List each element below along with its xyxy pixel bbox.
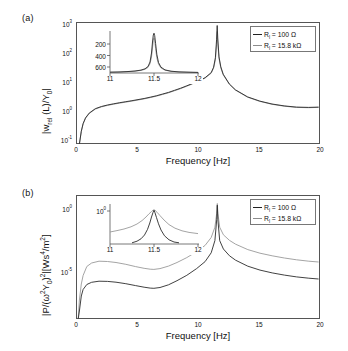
panel-b-xtick-4: 20: [316, 321, 323, 328]
ylabel-b-part2: Y: [40, 284, 51, 290]
panel-b-inset-xtick-0: 11: [107, 246, 114, 253]
ylabel-b-sup1: 2: [39, 290, 46, 294]
panel-a-xtick-1: 5: [135, 146, 139, 153]
panel-a-plot-area: 11 11.5 12 200 400 600 Rl = 100 Ω Rl = 1…: [76, 22, 320, 144]
legend-swatch-gray: [253, 45, 262, 46]
panel-a-ytick-4: 103: [50, 21, 72, 28]
panel-a-ytick-1: 100: [50, 108, 72, 115]
panel-a-ytick-0: 10-1: [50, 137, 72, 144]
legend-label-1: Rl = 15.8 kΩ: [264, 42, 301, 49]
ylabel-b-part6: ]: [40, 234, 51, 237]
legend-row-1: Rl = 15.8 kΩ: [253, 213, 312, 224]
panel-a-xlabel: Frequency [Hz]: [166, 155, 230, 166]
panel-a: (a) |wrel (L)/Y0| 10-1 100 101 102 103: [0, 0, 348, 176]
panel-a-ytick-3: 102: [50, 50, 72, 57]
panel-a-inset-xtick-0: 11: [107, 75, 114, 82]
ylabel-a-sub1: rel: [46, 117, 53, 124]
ylabel-a-part3: |: [40, 88, 51, 90]
panel-a-ytick-2: 101: [50, 79, 72, 86]
panel-a-xtick-4: 20: [316, 146, 323, 153]
panel-a-inset-series-gray: [110, 38, 198, 73]
panel-b-inset: 11 11.5 12 100: [91, 201, 203, 255]
panel-b-label: (b): [22, 188, 34, 198]
legend-row-0: Rl = 100 Ω: [253, 29, 312, 40]
panel-a-legend: Rl = 100 Ω Rl = 15.8 kΩ: [250, 26, 316, 52]
ylabel-b-part1: |P/(ω: [40, 294, 51, 316]
ylabel-a-sub2: 0: [46, 91, 53, 95]
panel-a-inset-xtick-1: 11.5: [148, 75, 160, 82]
legend-row-0: Rl = 100 Ω: [253, 202, 312, 213]
panel-b-xtick-3: 15: [255, 321, 262, 328]
panel-a-inset-ytick-1: 400: [86, 52, 106, 59]
ylabel-b-part3: ): [40, 277, 51, 280]
panel-b-plot-area: 11 11.5 12 100 Rl = 100 Ω Rl = 15.8 kΩ: [76, 195, 320, 319]
panel-a-inset-xtick-2: 12: [194, 75, 201, 82]
panel-a-label: (a): [22, 13, 34, 23]
panel-b-ytick-0: 10-5: [50, 269, 72, 276]
panel-b-inset-series-gray: [110, 210, 198, 234]
legend-label-0: Rl = 100 Ω: [264, 204, 296, 211]
legend-swatch-black: [253, 34, 262, 35]
panel-a-xtick-0: 0: [74, 146, 78, 153]
figure-root: (a) |wrel (L)/Y0| 10-1 100 101 102 103: [0, 0, 348, 351]
legend-row-1: Rl = 15.8 kΩ: [253, 40, 312, 51]
panel-a-inset: 11 11.5 12 200 400 600: [91, 29, 203, 84]
panel-a-inset-ytick-0: 200: [86, 41, 106, 48]
panel-a-xtick-3: 15: [255, 146, 262, 153]
panel-a-inset-ytick-2: 600: [86, 64, 106, 71]
panel-b-inset-xtick-1: 11.5: [148, 246, 160, 253]
ylabel-b-sup4: 4: [39, 251, 46, 255]
panel-b-xtick-1: 5: [135, 321, 139, 328]
legend-swatch-gray: [253, 218, 262, 219]
ylabel-b-sub2: 0: [46, 280, 53, 284]
panel-b-inset-ytick-0: 100: [87, 208, 106, 215]
ylabel-a-part1: |w: [40, 125, 51, 134]
panel-b-xtick-0: 0: [74, 321, 78, 328]
panel-b-inset-xtick-2: 12: [194, 246, 201, 253]
legend-label-0: Rl = 100 Ω: [264, 31, 296, 38]
panel-b-xlabel: Frequency [Hz]: [166, 330, 230, 341]
ylabel-b-sup3: 2: [39, 274, 46, 278]
legend-swatch-black: [253, 207, 262, 208]
panel-b-legend: Rl = 100 Ω Rl = 15.8 kΩ: [250, 199, 316, 225]
panel-b-xtick-2: 10: [194, 321, 201, 328]
panel-b: (b) |P/(ω2Y0)2|[Ws4/m2] 10-5 100: [0, 176, 348, 351]
legend-label-1: Rl = 15.8 kΩ: [264, 215, 301, 222]
panel-a-xtick-2: 10: [194, 146, 201, 153]
ylabel-b-sup5: 2: [39, 237, 46, 241]
panel-b-ytick-1: 100: [50, 206, 72, 213]
ylabel-b-part5: /m: [40, 241, 51, 252]
